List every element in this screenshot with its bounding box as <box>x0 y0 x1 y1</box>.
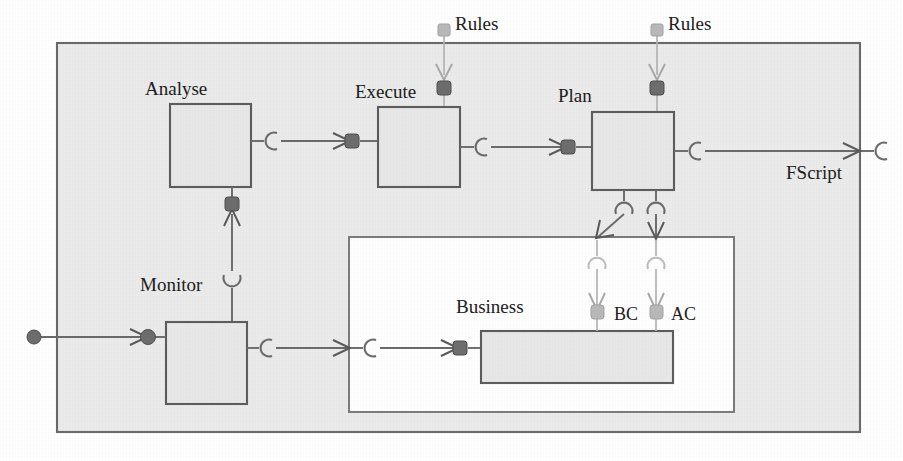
component-label-execute: Execute <box>355 81 416 102</box>
port-bc[interactable] <box>591 305 604 319</box>
component-execute[interactable] <box>378 107 460 187</box>
label-rules-plan: Rules <box>668 13 711 34</box>
inner-container-managed-resource[interactable] <box>349 237 734 412</box>
port-rules-execute-external[interactable] <box>438 24 450 36</box>
diagram-canvas: Rules Rules Analyse Execute <box>0 0 903 461</box>
component-label-monitor: Monitor <box>140 274 203 295</box>
port-rules-plan-external[interactable] <box>651 24 663 36</box>
port-analyse-out[interactable] <box>345 134 359 148</box>
component-label-business: Business <box>456 296 524 317</box>
component-plan[interactable] <box>592 112 674 190</box>
component-business[interactable] <box>481 331 673 383</box>
component-label-plan: Plan <box>558 85 592 106</box>
port-monitor-in[interactable] <box>141 330 156 345</box>
component-diagram-svg: Rules Rules Analyse Execute <box>0 0 903 461</box>
component-monitor[interactable] <box>166 322 247 404</box>
port-business-in[interactable] <box>453 341 467 355</box>
port-plan-rules-in[interactable] <box>650 81 664 95</box>
label-fscript: FScript <box>786 162 843 183</box>
port-monitor-analyse-out[interactable] <box>225 197 239 211</box>
label-ac: AC <box>671 304 696 324</box>
port-input-external[interactable] <box>27 330 41 344</box>
label-bc: BC <box>614 304 638 324</box>
port-ac[interactable] <box>650 305 663 319</box>
port-execute-rules-in[interactable] <box>437 81 451 95</box>
label-rules-execute: Rules <box>455 13 498 34</box>
component-analyse[interactable] <box>170 104 251 187</box>
port-execute-out[interactable] <box>561 140 575 154</box>
component-label-analyse: Analyse <box>145 78 207 99</box>
